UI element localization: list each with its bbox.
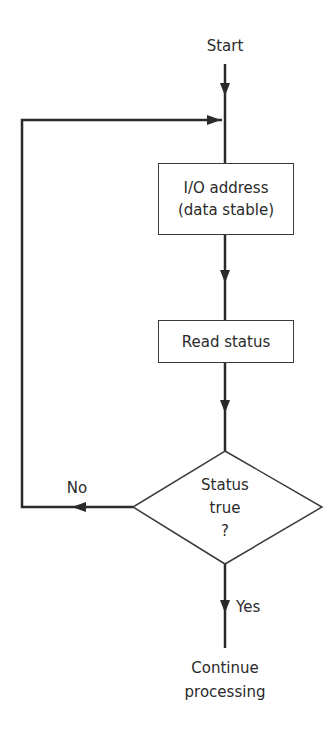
decision-line-1: Status <box>185 474 265 497</box>
end-line-1: Continue <box>165 656 285 680</box>
read-status-label: Read status <box>182 331 271 353</box>
end-label: Continue processing <box>165 656 285 704</box>
io-address-box: I/O address (data stable) <box>158 163 294 235</box>
arrow-down-icon <box>220 400 230 413</box>
flowchart-connectors <box>0 0 336 736</box>
read-status-box: Read status <box>158 320 294 363</box>
no-branch-label: No <box>60 478 94 498</box>
decision-text: Status true ? <box>185 474 265 543</box>
io-address-line-1: I/O address <box>184 177 269 199</box>
io-address-line-2: (data stable) <box>178 199 274 221</box>
end-line-2: processing <box>165 680 285 704</box>
yes-branch-label: Yes <box>236 597 272 617</box>
arrow-right-icon <box>207 115 221 125</box>
decision-line-2: true <box>185 497 265 520</box>
arrow-down-icon <box>220 600 230 613</box>
decision-line-3: ? <box>185 520 265 543</box>
arrow-down-icon <box>220 270 230 283</box>
arrow-left-icon <box>72 502 86 512</box>
arrow-down-icon <box>220 83 230 96</box>
start-label: Start <box>195 36 255 56</box>
